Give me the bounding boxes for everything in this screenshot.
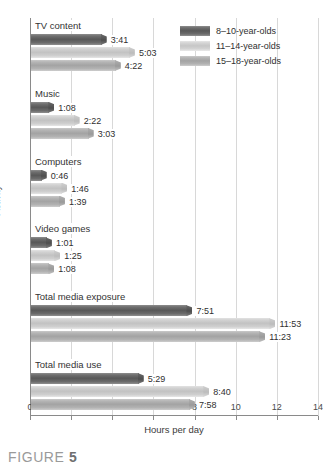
bar-value-label: 3:41 [110,35,130,45]
bar[interactable] [31,128,94,139]
bar-row[interactable] [31,305,192,316]
legend-label: 11–14-year-olds [216,41,280,51]
bar-body [31,263,49,274]
bar[interactable] [31,386,209,397]
bar[interactable] [31,34,107,45]
bar-value-label: 11:23 [268,332,292,342]
bar-row[interactable] [31,399,195,410]
bar-cap [59,196,65,207]
bar-cap [259,331,265,342]
bar-cap [88,128,94,139]
bar-row[interactable] [31,183,67,194]
bar-row[interactable] [31,237,52,248]
bar-value-label: 1:25 [63,251,83,261]
legend-item: 11–14-year-olds [180,40,281,52]
bar-body [31,386,204,397]
bar-cap [48,102,54,113]
bar[interactable] [31,373,144,384]
bar-value-label: 7:58 [198,400,218,410]
bar-body [31,250,55,261]
legend-swatch-icon [180,56,210,66]
bar-row[interactable] [31,263,54,274]
figure-caption-prefix: FIGURE [8,449,65,465]
bar-row[interactable] [31,386,209,397]
bar-row[interactable] [31,196,65,207]
y-axis-title: Activity [0,185,2,215]
gridline [71,18,72,416]
bar-value-label: 7:51 [195,306,215,316]
bar-row[interactable] [31,331,265,342]
tick-mark [236,416,237,420]
bar[interactable] [31,331,265,342]
gridline [112,18,113,416]
bar-value-label: 1:08 [57,103,77,113]
bar-cap [46,237,52,248]
bar-body [31,170,42,181]
gridline [153,18,154,416]
tick-mark [318,416,319,420]
bar[interactable] [31,102,54,113]
bar-row[interactable] [31,60,121,71]
bar-body [31,196,60,207]
bar-value-label: 11:53 [278,319,302,329]
bar[interactable] [31,196,65,207]
bar-row[interactable] [31,115,80,126]
bar[interactable] [31,263,54,274]
category-label: Video games [34,223,92,234]
bar[interactable] [31,250,60,261]
legend-label: 8–10-year-olds [216,26,276,36]
bar-value-label: 4:22 [124,61,144,71]
bar[interactable] [31,60,121,71]
x-tick-label: 14 [313,402,323,412]
bar-body [31,237,47,248]
bar-body [31,183,62,194]
bar-body [31,399,190,410]
legend-item: 8–10-year-olds [180,25,281,37]
tick-mark [30,416,31,420]
bar-row[interactable] [31,128,94,139]
bar[interactable] [31,183,67,194]
bar-row[interactable] [31,250,60,261]
tick-mark [71,416,72,420]
bar-value-label: 2:22 [83,116,103,126]
bar-body [31,128,89,139]
x-axis-line [30,415,318,416]
bar-cap [41,170,47,181]
y-axis-line [30,18,31,416]
bar-value-label: 0:46 [50,171,70,181]
category-label: Total media exposure [34,291,127,302]
tick-mark [153,416,154,420]
bar-row[interactable] [31,170,47,181]
bar-row[interactable] [31,318,275,329]
legend-label: 15–18-year-olds [216,56,281,66]
bar[interactable] [31,47,135,58]
bar-value-label: 8:40 [212,387,232,397]
bar-value-label: 1:46 [70,184,90,194]
bar-row[interactable] [31,373,144,384]
tick-mark [112,416,113,420]
bar[interactable] [31,318,275,329]
bar-body [31,318,270,329]
bar-cap [54,250,60,261]
bar-value-label: 1:39 [68,197,88,207]
bar-cap [269,318,275,329]
bar[interactable] [31,115,80,126]
legend-item: 15–18-year-olds [180,55,281,67]
category-label: Total media use [34,359,104,370]
bar[interactable] [31,305,192,316]
bar-group: Total media exposure7:5111:5311:23 [30,291,318,344]
bar[interactable] [31,399,195,410]
bar-cap [203,386,209,397]
bar-row[interactable] [31,47,135,58]
bar-row[interactable] [31,34,107,45]
bar-body [31,47,130,58]
bar[interactable] [31,237,52,248]
bar-cap [115,60,121,71]
bar-cap [186,305,192,316]
bar-body [31,102,49,113]
bar-row[interactable] [31,102,54,113]
figure-caption-number: 5 [69,449,77,465]
x-tick-label: 12 [272,402,282,412]
bar[interactable] [31,170,47,181]
gridline [318,18,319,416]
